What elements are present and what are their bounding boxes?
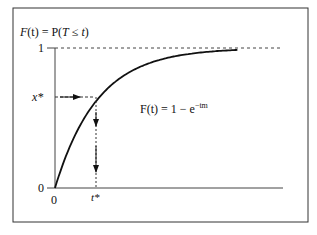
y-tick-label-1: 1 <box>38 41 44 55</box>
x-tick-label-0: 0 <box>51 193 57 207</box>
y-tick-label-xstar: x* <box>31 90 43 104</box>
cdf-curve <box>55 50 237 188</box>
y-axis-title: F(t) = P(T ≤ t) <box>19 25 89 39</box>
cdf-diagram: F(t) = P(T ≤ t) 1 x* 0 0 t* F(t) = 1 − e… <box>0 0 317 235</box>
formula-label: F(t) = 1 − e−tm <box>140 101 209 116</box>
y-tick-label-0: 0 <box>38 181 44 195</box>
x-tick-label-tstar: t* <box>91 191 100 203</box>
